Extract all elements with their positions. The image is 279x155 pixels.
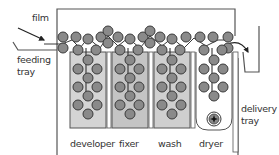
roller [113,32,123,42]
tank-label-dryer: dryer [199,139,223,149]
feeding-tray-label-line1: feeding [17,55,51,65]
roller [125,34,135,44]
roller [181,32,191,42]
roller [145,26,155,36]
roller [103,26,113,36]
roller [223,32,233,42]
roller [58,32,68,42]
roller [71,32,81,42]
roller [103,38,113,48]
roller [195,32,205,42]
delivery-tray-label-line1: delivery [241,104,277,114]
film-arrow [18,28,44,40]
roller [115,45,125,55]
roller [73,45,83,55]
roller [199,45,209,55]
roller [133,45,143,55]
feeding-tray [13,42,57,50]
tank-divider [191,52,195,128]
exit-post [233,52,238,152]
tank-divider [107,52,111,128]
tank-label-wash: wash [158,139,181,149]
roller [145,38,155,48]
film-processor-diagram [0,0,279,155]
roller [175,45,185,55]
roller [83,34,93,44]
roller [208,32,218,42]
roller [167,34,177,44]
tank-label-fixer: fixer [119,139,139,149]
feeding-tray-label-line2: tray [17,67,35,77]
tank-divider [149,52,153,128]
film-label: film [32,13,49,23]
roller [217,45,227,55]
dryer-fan-icon [207,112,221,126]
delivery-tray-label-line2: tray [241,116,259,126]
roller [91,45,101,55]
roller [58,43,68,53]
tank-label-developer: developer [70,139,115,149]
roller [155,32,165,42]
roller [157,45,167,55]
